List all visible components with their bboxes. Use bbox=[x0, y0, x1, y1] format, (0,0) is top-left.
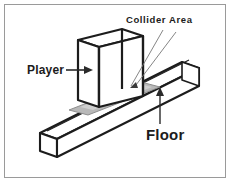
player-left-face bbox=[78, 40, 99, 107]
diagram-canvas: Collider Area Player Floor bbox=[0, 0, 231, 183]
player-label: Player bbox=[27, 63, 64, 77]
collider-area-label: Collider Area bbox=[126, 14, 193, 25]
floor-label: Floor bbox=[146, 126, 185, 143]
isometric-scene bbox=[0, 0, 231, 183]
